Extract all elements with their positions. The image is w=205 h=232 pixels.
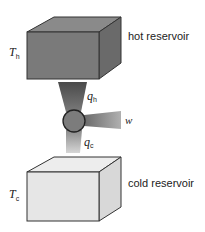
heat-in-beam [58,82,87,112]
cold-box-front [27,172,99,221]
heat-in-label: qh [87,89,97,103]
cold-reservoir-label: cold reservoir [128,177,194,189]
heat-out-beam [66,130,82,153]
cold-reservoir-box [27,157,121,221]
hot-box-front [27,32,99,79]
hot-reservoir-box [27,17,121,79]
cold-temperature-label: Tc [9,187,20,202]
hot-temperature-label: Th [9,45,20,60]
work-label: w [125,114,133,126]
hot-reservoir-label: hot reservoir [128,30,189,42]
heat-out-label: qc [84,135,94,149]
heat-engine-diagram: hot reservoir cold reservoir Th Tc qh qc… [0,0,205,232]
engine-icon [63,110,85,132]
work-beam [84,111,121,129]
